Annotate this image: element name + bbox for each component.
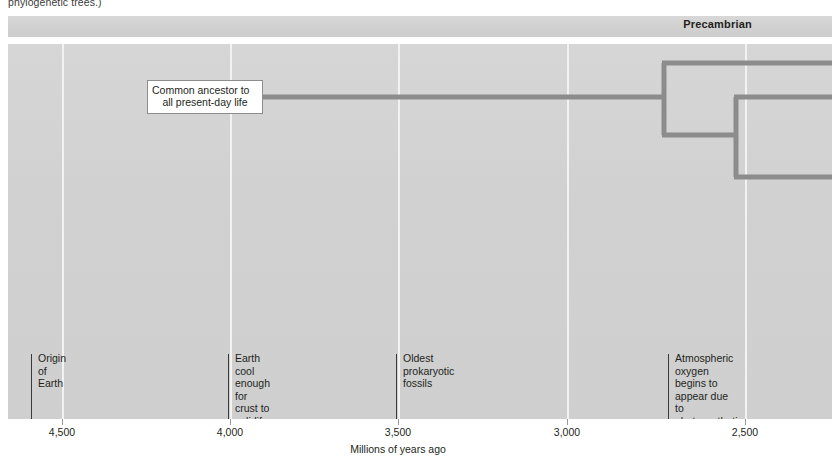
x-tick-label-3000: 3,000 xyxy=(554,426,580,438)
event-label: Oldest prokaryotic fossils xyxy=(403,352,454,390)
gridline-2500 xyxy=(745,44,747,419)
x-tick-3000 xyxy=(567,419,568,425)
callout-line-1: Common ancestor to xyxy=(152,84,258,96)
era-band-label: Precambrian xyxy=(683,18,752,30)
event-label: Earth cool enough for crust to solidify xyxy=(235,352,270,419)
figure-caption-fragment: phylogenetic trees.) xyxy=(8,0,102,8)
gridline-3500 xyxy=(398,44,400,419)
event-rule xyxy=(228,354,229,419)
x-tick-4500 xyxy=(62,419,63,425)
x-tick-label-2500: 2,500 xyxy=(732,426,758,438)
timeline-plot-area: Common ancestor to all present-day life … xyxy=(8,44,832,419)
x-axis-title: Millions of years ago xyxy=(350,443,446,455)
x-tick-label-4000: 4,000 xyxy=(217,426,243,438)
event-rule xyxy=(31,354,32,419)
x-axis: 4,500 4,000 3,500 3,000 2,500 Millions o… xyxy=(8,419,832,459)
event-rule xyxy=(396,354,397,419)
event-rule xyxy=(668,354,669,419)
x-tick-label-3500: 3,500 xyxy=(385,426,411,438)
event-label: Origin of Earth xyxy=(38,352,66,390)
x-tick-2500 xyxy=(745,419,746,425)
callout-common-ancestor: Common ancestor to all present-day life xyxy=(147,80,263,114)
gridline-3000 xyxy=(567,44,569,419)
event-label: Atmospheric oxygen begins to appear due … xyxy=(675,352,743,419)
x-tick-3500 xyxy=(398,419,399,425)
x-tick-4000 xyxy=(230,419,231,425)
callout-line-2: all present-day life xyxy=(152,96,258,108)
x-tick-label-4500: 4,500 xyxy=(49,426,75,438)
